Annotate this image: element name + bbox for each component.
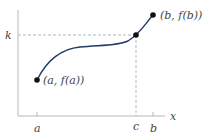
label-point-b: (b, f(b))	[160, 9, 202, 22]
label-tick-b: b	[150, 122, 157, 135]
label-tick-c: c	[133, 120, 139, 133]
point-a	[34, 77, 40, 83]
label-k: k	[5, 29, 12, 42]
label-point-a: (a, f(a))	[43, 74, 84, 87]
label-tick-a: a	[34, 122, 41, 135]
ivt-diagram: k (a, f(a)) (b, f(b)) a c b x	[0, 0, 210, 137]
point-c	[133, 32, 139, 38]
point-b	[150, 12, 156, 18]
label-x-axis: x	[170, 110, 177, 123]
